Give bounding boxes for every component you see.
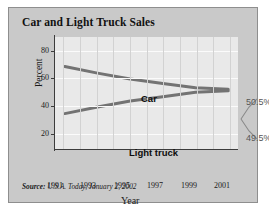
gridline-vertical-1995 (130, 37, 131, 149)
gridline-vertical-1992 (80, 37, 81, 149)
gridline-vertical-1998 (180, 37, 181, 149)
annotation-car-value: 50.5% (246, 97, 269, 107)
plot-wrapper: 80 60 40 20 1991 1993 1995 1997 1999 200… (47, 37, 238, 149)
x-tick-label-1999: 1999 (174, 181, 204, 190)
y-tick-mark-80 (51, 51, 55, 52)
gridline-vertical-1999 (197, 37, 198, 149)
source-note-label: Source: (22, 182, 46, 191)
source-note: Source: U.S.A. Today, January 2, 2002 (22, 182, 136, 191)
gridline-vertical-2000 (213, 37, 214, 149)
y-tick-label-20: 20 (31, 129, 49, 138)
y-axis-title: Percent (34, 59, 44, 88)
chart-title: Car and Light Truck Sales (22, 16, 155, 28)
y-tick-label-40: 40 (31, 101, 49, 110)
x-tick-label-1997: 1997 (140, 181, 170, 190)
annotation-light-truck-value: 49.5% (246, 133, 269, 143)
source-note-text: U.S.A. Today, January 2, 2002 (46, 182, 137, 191)
y-tick-label-80: 80 (31, 46, 49, 55)
figure-panel: Car and Light Truck Sales (8, 7, 258, 203)
gridline-vertical-1993 (97, 37, 98, 149)
gridline-vertical-1991 (63, 37, 64, 149)
chart-screenshot: Car and Light Truck Sales (0, 0, 269, 211)
x-tick-label-2001: 2001 (207, 181, 237, 190)
y-tick-mark-60 (51, 78, 55, 79)
x-axis-title: Year (121, 195, 139, 206)
gridline-vertical-1997 (163, 37, 164, 149)
y-tick-mark-20 (51, 134, 55, 135)
series-label-light-truck: Light truck (129, 147, 178, 158)
y-tick-mark-40 (51, 106, 55, 107)
series-label-car: Car (141, 93, 157, 104)
gridline-vertical-1994 (113, 37, 114, 149)
